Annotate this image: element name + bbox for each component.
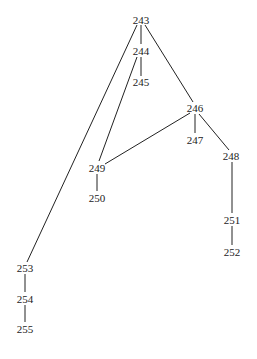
node-243: 243 [133,14,150,26]
node-252: 252 [224,246,241,258]
edge-243-253 [27,25,137,262]
node-247: 247 [187,134,204,146]
node-244: 244 [133,45,150,57]
node-248: 248 [223,150,240,162]
edge-244-249 [99,57,137,161]
node-255: 255 [17,323,34,335]
node-250: 250 [89,192,106,204]
tree-diagram: 243244245246247248249250251252253254255 [0,0,257,359]
node-253: 253 [17,262,34,274]
node-245: 245 [133,76,150,88]
node-254: 254 [17,293,34,305]
nodes-group: 243244245246247248249250251252253254255 [17,14,241,335]
edges-group [25,25,232,322]
edge-246-248 [199,114,229,150]
edge-246-249 [105,113,190,164]
node-249: 249 [89,162,106,174]
node-246: 246 [187,102,204,114]
edge-243-246 [145,25,193,102]
node-251: 251 [224,214,241,226]
